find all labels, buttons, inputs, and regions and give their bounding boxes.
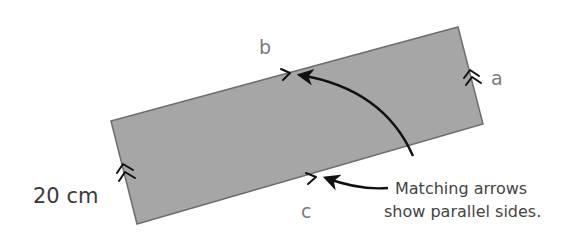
dimension-label: 20 cm: [33, 184, 98, 208]
diagram-canvas: b a c 20 cm Matching arrows show paralle…: [0, 0, 586, 246]
pointer-arrow-to-bottom-marker-icon: [326, 178, 388, 188]
annotation-line-1: Matching arrows: [395, 179, 527, 198]
annotation-line-2: show parallel sides.: [384, 202, 541, 221]
side-label-c: c: [301, 200, 311, 222]
side-label-b: b: [259, 36, 271, 58]
side-label-a: a: [491, 67, 503, 89]
bottom-side-parallel-marker-icon: [306, 173, 316, 184]
parallel-sides-diagram: b a c 20 cm Matching arrows show paralle…: [0, 0, 586, 246]
